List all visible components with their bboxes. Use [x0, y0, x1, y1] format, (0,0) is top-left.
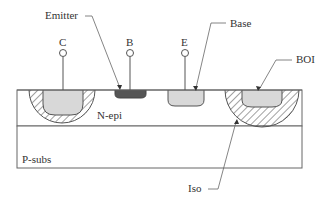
- boi-leader-line: [260, 60, 292, 88]
- terminal-b: B: [126, 36, 134, 90]
- terminal-e-circle-icon: [182, 50, 189, 57]
- bjt-cross-section-diagram: C B E Emitter Base BOI Iso N-epi P-subs: [0, 0, 330, 203]
- base-region: [168, 90, 204, 106]
- terminal-b-circle-icon: [127, 50, 134, 57]
- p-substrate-layer: [17, 126, 302, 168]
- terminal-e-label: E: [181, 36, 188, 48]
- terminal-c-circle-icon: [60, 50, 67, 57]
- base-callout-label: Base: [230, 17, 252, 29]
- right-boi-region: [242, 90, 282, 107]
- terminal-c: C: [59, 36, 67, 90]
- emitter-callout-label: Emitter: [45, 9, 78, 21]
- base-leader-line: [196, 23, 226, 88]
- emitter-leader-line: [85, 16, 120, 88]
- iso-callout-label: Iso: [188, 182, 202, 194]
- n-epi-label: N-epi: [97, 109, 122, 121]
- boi-callout-label: BOI: [296, 53, 315, 65]
- left-boi-region: [43, 90, 83, 115]
- terminal-c-label: C: [59, 36, 66, 48]
- p-subs-label: P-subs: [22, 153, 51, 165]
- emitter-region: [115, 90, 146, 98]
- terminal-b-label: B: [126, 36, 133, 48]
- terminal-e: E: [181, 36, 189, 90]
- emitter-arrow-icon: [117, 85, 122, 90]
